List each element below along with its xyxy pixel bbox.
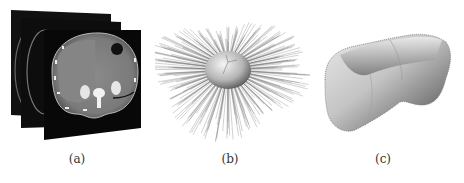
panel-b: (b) bbox=[155, 0, 310, 183]
caption-b: (b) bbox=[210, 152, 250, 166]
caption-a: (a) bbox=[57, 152, 97, 166]
panel-c: (c) bbox=[310, 0, 464, 183]
panel-a: (a) bbox=[0, 0, 155, 183]
caption-c: (c) bbox=[363, 152, 403, 166]
